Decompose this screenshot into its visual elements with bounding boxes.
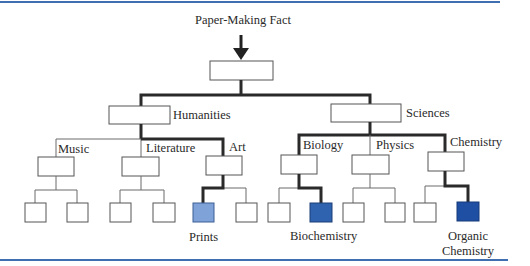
label-literature: Literature xyxy=(146,142,195,155)
arrow-down-icon xyxy=(233,35,249,60)
leaf-box xyxy=(236,203,257,222)
humanities-box xyxy=(109,106,170,124)
label-sciences: Sciences xyxy=(406,107,450,120)
literature-box xyxy=(122,157,159,176)
physics-box xyxy=(352,155,389,174)
music-box xyxy=(38,157,74,176)
label-chemistry: Chemistry xyxy=(450,136,502,149)
diagram-title: Paper-Making Fact xyxy=(195,14,291,27)
label-art: Art xyxy=(229,141,246,154)
leaf-box xyxy=(268,203,290,222)
root-box xyxy=(210,61,273,80)
leaf-box xyxy=(110,203,131,222)
chemistry-box xyxy=(428,152,464,171)
sciences-box xyxy=(331,104,401,122)
label-physics: Physics xyxy=(376,139,414,152)
label-music: Music xyxy=(58,143,89,156)
label-organic-chemistry: Organic Chemistry xyxy=(440,230,496,257)
leaf-box xyxy=(153,203,175,222)
label-biology: Biology xyxy=(303,139,343,152)
tree-diagram xyxy=(0,0,530,266)
label-biochemistry: Biochemistry xyxy=(290,230,357,243)
prints-box xyxy=(193,203,214,222)
leaf-box xyxy=(67,203,88,222)
leaf-box xyxy=(25,203,46,222)
art-box xyxy=(206,156,242,175)
label-organic-line1: Organic xyxy=(440,230,496,243)
biochemistry-box xyxy=(310,203,332,222)
label-prints: Prints xyxy=(189,231,218,244)
label-humanities: Humanities xyxy=(173,109,231,122)
organic-chemistry-box xyxy=(457,202,479,221)
leaf-box xyxy=(385,203,405,222)
biology-box xyxy=(281,155,317,174)
leaf-box xyxy=(343,203,364,222)
leaf-box xyxy=(414,203,436,222)
label-organic-line2: Chemistry xyxy=(440,245,496,258)
